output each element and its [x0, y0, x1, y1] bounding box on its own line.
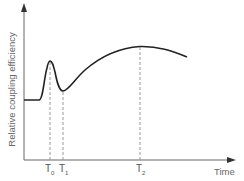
y-axis-arrow-icon	[21, 3, 27, 12]
tick-t2: T2	[136, 164, 145, 176]
chart-canvas	[0, 0, 244, 181]
tick-t1: T1	[59, 164, 68, 176]
efficiency-curve	[24, 46, 187, 100]
tick-t0: T0	[45, 164, 54, 176]
y-axis-label: Relative coupling efficiency	[6, 25, 17, 155]
x-axis-label: Time	[214, 166, 235, 177]
x-axis-arrow-icon	[227, 157, 236, 163]
